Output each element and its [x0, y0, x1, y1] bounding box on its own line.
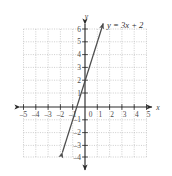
x-tick-label: 4 — [135, 110, 139, 119]
y-tick-label: –3 — [73, 141, 82, 150]
x-tick-label: 1 — [99, 110, 103, 119]
y-tick-label: –4 — [73, 153, 82, 162]
y-tick-label: 3 — [77, 63, 81, 72]
x-tick-label: 3 — [123, 110, 127, 119]
coordinate-plane-svg: –5 –4 –3 –2 –1 0 1 2 3 4 5 6 5 4 3 2 1 –… — [0, 0, 172, 176]
equation-annotation: y = 3x + 2 — [106, 20, 144, 30]
y-tick-label: 1 — [77, 89, 81, 98]
y-tick-label: 2 — [77, 76, 81, 85]
y-axis-label: y — [84, 12, 89, 21]
x-tick-label: 5 — [147, 110, 151, 119]
x-tick-label: –4 — [31, 110, 40, 119]
x-axis-label: x — [155, 103, 160, 112]
graph-figure: –5 –4 –3 –2 –1 0 1 2 3 4 5 6 5 4 3 2 1 –… — [0, 0, 172, 176]
y-tick-label: –1 — [73, 115, 82, 124]
x-tick-label: –2 — [56, 110, 65, 119]
x-tick-label: 2 — [110, 110, 114, 119]
y-tick-label: 6 — [77, 25, 81, 34]
y-tick-label: 5 — [77, 37, 81, 46]
y-tick-label: –2 — [73, 128, 82, 137]
y-tick-label: 4 — [77, 50, 81, 59]
x-tick-label: –3 — [43, 110, 52, 119]
axis-lines — [20, 24, 152, 170]
y-tick-labels: 6 5 4 3 2 1 –1 –2 –3 –4 — [73, 25, 82, 162]
x-tick-label: –5 — [19, 110, 28, 119]
x-tick-label-origin: 0 — [89, 110, 93, 119]
